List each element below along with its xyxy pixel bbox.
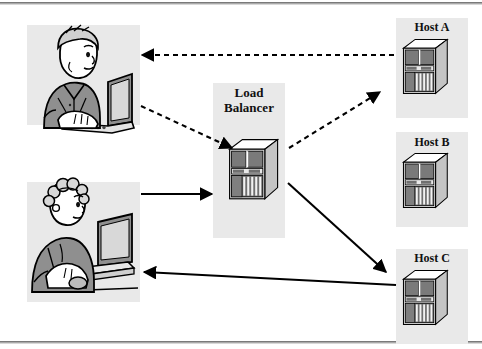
client-bottom-panel xyxy=(27,182,140,302)
client-top-panel xyxy=(27,25,140,125)
diagram-canvas: Load Balancer Host A Host B Host C xyxy=(0,0,482,349)
connection-load-balancer-to-host-a xyxy=(289,92,380,148)
top-divider-rule xyxy=(0,2,482,5)
load-balancer-label: Load Balancer xyxy=(205,86,293,115)
connection-load-balancer-to-host-c xyxy=(288,183,386,272)
host-a-label: Host A xyxy=(396,21,468,34)
connection-host-c-to-client-bottom xyxy=(144,272,396,285)
host-c-label: Host C xyxy=(396,252,468,265)
host-b-label: Host B xyxy=(396,136,468,149)
